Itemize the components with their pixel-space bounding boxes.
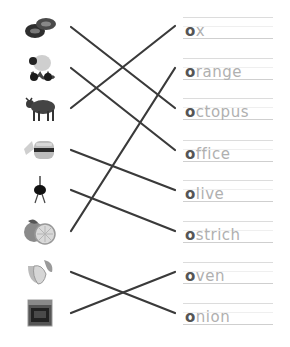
word-rest: ffice: [196, 145, 231, 163]
oven-icon: [22, 297, 58, 329]
octopus-picture: [22, 52, 58, 84]
word-oven: oven: [185, 267, 225, 285]
word-first-letter: o: [185, 22, 196, 40]
orange-icon: [22, 215, 58, 247]
oven-picture: [22, 297, 58, 329]
match-line: [71, 68, 175, 231]
word-row-onion: onion: [183, 303, 273, 325]
word-ox: ox: [185, 22, 205, 40]
top-guide-line: [183, 221, 273, 222]
orange-picture: [22, 215, 58, 247]
word-rest: range: [196, 63, 242, 81]
top-guide-line: [183, 140, 273, 141]
word-rest: strich: [196, 226, 241, 244]
word-row-ox: ox: [183, 17, 273, 39]
word-first-letter: o: [185, 185, 196, 203]
onion-icon: [22, 256, 58, 288]
word-rest: x: [196, 22, 205, 40]
match-line: [71, 68, 175, 150]
word-first-letter: o: [185, 308, 196, 326]
word-row-orange: orange: [183, 58, 273, 80]
word-olive: olive: [185, 185, 224, 203]
word-row-oven: oven: [183, 262, 273, 284]
office-picture: [22, 134, 58, 166]
top-guide-line: [183, 17, 273, 18]
top-guide-line: [183, 58, 273, 59]
shoes-picture: [22, 11, 58, 43]
word-row-ostrich: ostrich: [183, 221, 273, 243]
ostrich-icon: [22, 174, 58, 206]
top-guide-line: [183, 180, 273, 181]
word-rest: nion: [196, 308, 230, 326]
word-office: office: [185, 145, 231, 163]
word-first-letter: o: [185, 226, 196, 244]
top-guide-line: [183, 98, 273, 99]
octopus-icon: [22, 52, 58, 84]
word-ostrich: ostrich: [185, 226, 241, 244]
shoes-icon: [22, 12, 58, 42]
ox-picture: [22, 92, 58, 124]
word-first-letter: o: [185, 145, 196, 163]
word-rest: ven: [196, 267, 225, 285]
office-icon: [22, 135, 58, 165]
word-octopus: octopus: [185, 103, 249, 121]
match-line: [71, 190, 175, 231]
word-row-olive: olive: [183, 180, 273, 202]
match-line: [71, 150, 175, 190]
ostrich-picture: [22, 174, 58, 206]
onion-picture: [22, 256, 58, 288]
top-guide-line: [183, 262, 273, 263]
word-orange: orange: [185, 63, 242, 81]
top-guide-line: [183, 303, 273, 304]
word-row-octopus: octopus: [183, 98, 273, 120]
word-first-letter: o: [185, 63, 196, 81]
word-row-office: office: [183, 140, 273, 162]
word-rest: ctopus: [196, 103, 249, 121]
word-onion: onion: [185, 308, 230, 326]
word-rest: live: [196, 185, 224, 203]
word-first-letter: o: [185, 103, 196, 121]
ox-icon: [22, 92, 58, 124]
word-first-letter: o: [185, 267, 196, 285]
